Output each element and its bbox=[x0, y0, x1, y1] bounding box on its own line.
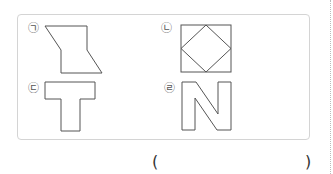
shape-4-n-shape bbox=[182, 82, 231, 130]
answer-close-paren: ) bbox=[305, 154, 311, 170]
answer-field[interactable] bbox=[162, 154, 302, 172]
shape-2-square-diamond bbox=[181, 25, 231, 72]
shape-3-t-shape bbox=[45, 82, 95, 131]
shape-1-hexagon bbox=[45, 26, 102, 73]
column-divider bbox=[330, 0, 331, 174]
answer-open-paren: ( bbox=[152, 154, 158, 170]
shapes-canvas bbox=[0, 0, 333, 174]
